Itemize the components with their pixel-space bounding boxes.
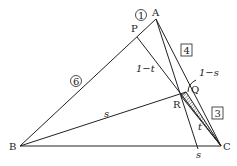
label-b: B <box>9 141 16 152</box>
label-boxed-3: 3 <box>215 108 221 119</box>
label-a: A <box>151 7 160 18</box>
side-ab <box>20 19 156 146</box>
label-s-br: s <box>104 108 109 119</box>
side-ac <box>156 19 221 146</box>
label-r: R <box>173 99 181 110</box>
label-1-minus-t: 1−t <box>136 63 156 74</box>
label-circled-1: 1 <box>138 10 144 21</box>
segment-bq <box>20 92 186 146</box>
label-boxed-4: 4 <box>184 45 190 56</box>
geometry-diagram: A B C P Q R 1−t 1−s s s t 1 6 4 3 <box>0 0 237 166</box>
label-p: P <box>131 23 138 34</box>
label-c: C <box>223 141 231 152</box>
label-circled-6: 6 <box>73 76 79 87</box>
label-1-minus-s: 1−s <box>199 67 219 78</box>
label-s-bc: s <box>196 149 201 160</box>
label-q: Q <box>191 84 199 95</box>
